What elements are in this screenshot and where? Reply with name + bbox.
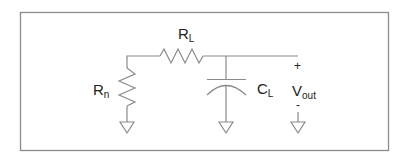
resistor-rn-icon bbox=[119, 68, 135, 106]
resistor-rl-icon bbox=[160, 49, 203, 63]
top-wire bbox=[127, 49, 298, 68]
label-cl: CL bbox=[257, 80, 274, 99]
capacitor-cl bbox=[207, 56, 246, 133]
label-rn: Rn bbox=[93, 81, 109, 100]
ground-icon bbox=[291, 122, 305, 133]
output-ground bbox=[291, 112, 305, 133]
vout-plus-sign: + bbox=[294, 59, 301, 73]
resistor-rn bbox=[119, 68, 135, 133]
ground-icon bbox=[120, 122, 134, 133]
ground-icon bbox=[219, 122, 233, 133]
vout-minus-sign: - bbox=[296, 98, 300, 112]
diagram-frame bbox=[21, 13, 389, 151]
label-rl: RL bbox=[178, 25, 195, 44]
circuit-diagram: RL Rn CL + Vout - bbox=[0, 0, 403, 160]
